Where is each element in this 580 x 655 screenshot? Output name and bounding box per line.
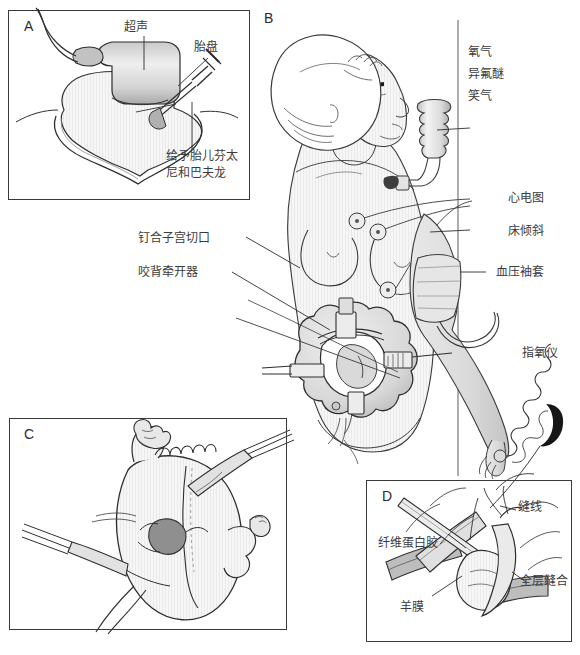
label-isoflurane: 异氟醚	[468, 67, 504, 82]
label-uterine-stapler: 钉合子宫切口	[138, 231, 210, 246]
ecg-stud-2	[376, 230, 380, 234]
patient-right-arm	[410, 214, 509, 461]
bp-cuff	[413, 255, 461, 323]
ecg-stud-1	[355, 219, 359, 223]
label-placenta: 胎盘	[194, 40, 218, 55]
oximeter-cable-inner	[512, 411, 548, 462]
label-pulse-oximeter: 指氧仪	[522, 346, 558, 361]
figure-root: A B C D 超声 胎盘 给予胎儿芬太 尼和巴夫龙 氧气 异氟醚 笑气 心电图…	[0, 0, 580, 655]
label-retractor: 咬背牵开器	[138, 265, 198, 280]
pulse-oximeter-probe	[494, 450, 506, 462]
panel-c-frame	[9, 418, 287, 630]
retractor-blade-bottom	[348, 392, 364, 414]
suture-knot	[332, 402, 340, 410]
label-oxygen: 氧气	[468, 45, 492, 60]
retractor-blade-top	[336, 312, 356, 338]
breathing-bellows	[417, 100, 451, 159]
label-nitrous-oxide: 笑气	[468, 89, 492, 104]
retractor-blade-left	[290, 364, 324, 377]
retractor-shaft-top	[339, 298, 353, 314]
panel-letter-d: D	[382, 488, 393, 504]
label-fibrin-glue: 纤维蛋白胶	[378, 536, 438, 551]
retractor-arm-left	[262, 366, 292, 374]
surgical-cap	[271, 35, 381, 150]
label-suture: 缝线	[518, 500, 542, 515]
label-bed-tilt: 床倾斜	[508, 224, 544, 239]
label-amnion: 羊膜	[400, 600, 424, 615]
circuit-elbow-inner	[406, 158, 440, 186]
ecg-stud-3	[386, 288, 390, 292]
label-fetal-drugs-line2: 尼和巴夫龙	[166, 166, 226, 181]
label-fetal-drugs-line1: 给予胎儿芬太	[166, 149, 238, 164]
label-bp-cuff: 血压袖套	[496, 265, 544, 280]
label-full-thickness-closure: 全层缝合	[520, 574, 568, 589]
panel-letter-c: C	[24, 426, 35, 442]
label-ecg: 心电图	[508, 191, 544, 206]
panel-letter-a: A	[24, 18, 34, 34]
panel-letter-b: B	[264, 10, 274, 26]
label-ultrasound: 超声	[124, 20, 148, 35]
table-edge-hook	[540, 404, 563, 446]
circuit-elbow-outer	[406, 158, 428, 180]
